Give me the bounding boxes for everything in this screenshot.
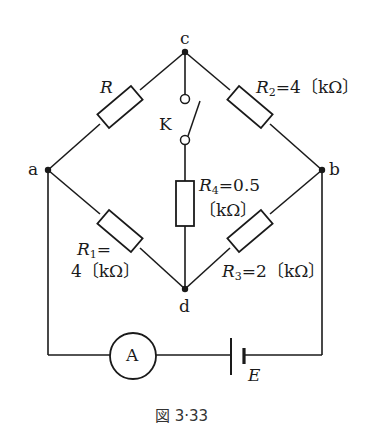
switch-label: K bbox=[159, 116, 172, 133]
node-d-dot bbox=[182, 286, 188, 292]
node-d-label: d bbox=[179, 298, 190, 315]
r2-value: 4〔kΩ〕 bbox=[290, 77, 359, 97]
wire-r-c bbox=[140, 52, 185, 90]
r4-value: 0.5 bbox=[233, 175, 260, 195]
r3-subscript: 3 bbox=[235, 270, 242, 283]
node-b-dot bbox=[319, 167, 325, 173]
node-a-dot bbox=[45, 167, 51, 173]
figure-caption: 図 3·33 bbox=[155, 409, 208, 424]
resistor-r4 bbox=[176, 181, 194, 226]
resistor-r4-label: R4=0.5 bbox=[199, 177, 260, 196]
r2-subscript: 2 bbox=[269, 86, 276, 99]
resistor-r4-unit: 〔kΩ〕 bbox=[199, 202, 257, 219]
wire-r3-b bbox=[270, 170, 322, 214]
circuit-figure: c a b d K R R2=4〔kΩ〕 R4=0.5 〔kΩ〕 R1= 4〔k… bbox=[0, 0, 374, 441]
node-c-dot bbox=[182, 49, 188, 55]
r4-equals: = bbox=[219, 175, 233, 195]
r4-symbol: R bbox=[199, 175, 212, 195]
r1-equals: = bbox=[97, 239, 111, 259]
r1-subscript: 1 bbox=[90, 248, 97, 261]
r3-value: 2〔kΩ〕 bbox=[256, 261, 325, 281]
wire-c-r2 bbox=[185, 52, 230, 90]
switch-bottom-terminal bbox=[181, 136, 190, 145]
wire-r1-d bbox=[140, 248, 185, 289]
r1-symbol: R bbox=[77, 239, 90, 259]
r2-symbol: R bbox=[256, 77, 269, 97]
resistor-r3-label: R3=2〔kΩ〕 bbox=[222, 263, 325, 282]
resistor-r1-label: R1= bbox=[77, 241, 111, 260]
resistor-r-label: R bbox=[100, 79, 113, 96]
r4-subscript: 4 bbox=[212, 184, 219, 197]
node-a-label: a bbox=[28, 161, 38, 178]
wire-a-r bbox=[48, 124, 100, 170]
r3-equals: = bbox=[242, 261, 256, 281]
resistor-r1-value: 4〔kΩ〕 bbox=[71, 263, 140, 280]
r2-equals: = bbox=[276, 77, 290, 97]
wire-a-r1 bbox=[48, 170, 100, 214]
node-c-label: c bbox=[180, 30, 190, 47]
resistor-r2-label: R2=4〔kΩ〕 bbox=[256, 79, 359, 98]
circuit-diagram bbox=[0, 0, 374, 441]
switch-top-terminal bbox=[181, 95, 190, 104]
r3-symbol: R bbox=[222, 261, 235, 281]
switch-blade bbox=[188, 101, 200, 136]
wire-r2-b bbox=[270, 124, 322, 170]
ammeter-label: A bbox=[126, 347, 138, 364]
node-b-label: b bbox=[329, 161, 340, 178]
battery-label: E bbox=[248, 367, 260, 384]
